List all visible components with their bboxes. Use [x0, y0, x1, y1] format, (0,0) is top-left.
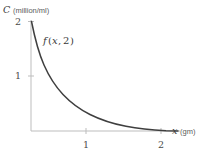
y-axis-label-units: (million/ml)	[13, 6, 50, 15]
x-axis-label-units: (gm)	[180, 127, 196, 136]
x-tick-label-1: 1	[83, 139, 89, 150]
curve-annotation: f ( x , 2 )	[42, 35, 74, 46]
y-tick-label-1: 1	[15, 70, 21, 81]
y-axis-label-symbol: C	[3, 4, 11, 15]
y-tick-label-2: 2	[15, 16, 21, 27]
plot-area: C (million/ml) x (gm) 2 1 1 2 f ( x , 2 …	[0, 0, 202, 158]
curve-label-paren-close: )	[70, 35, 74, 46]
curve-label-arg: 2	[63, 35, 69, 46]
curve-label-comma: ,	[58, 35, 61, 46]
x-axis-label-symbol: x	[172, 125, 178, 136]
x-tick-label-2: 2	[158, 139, 164, 150]
chart-figure: C (million/ml) x (gm) 2 1 1 2 f ( x , 2 …	[0, 0, 202, 158]
